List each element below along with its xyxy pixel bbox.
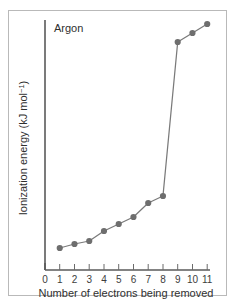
data-point (116, 221, 122, 227)
y-axis-title-superscript: −1 (17, 84, 26, 93)
x-tick-label: 5 (116, 274, 122, 285)
chart-figure: 0 1 2 3 4 5 6 7 8 9 10 11 Number of elec… (0, 0, 236, 308)
x-tick-label: 9 (175, 274, 181, 285)
data-point (204, 21, 210, 27)
x-tick-label: 6 (131, 274, 137, 285)
x-tick-label: 4 (101, 274, 107, 285)
y-axis-title-group: Ionization energy (kJ mol−1) (17, 81, 30, 216)
y-axis-title: Ionization energy (kJ mol−1) (17, 81, 30, 216)
data-point (189, 30, 195, 36)
y-axis-title-tail: ) (17, 81, 29, 85)
ionization-energy-markers (57, 21, 211, 251)
x-tick-label: 11 (202, 274, 213, 285)
data-point (101, 228, 107, 234)
data-point (145, 200, 151, 206)
x-tick-label: 7 (145, 274, 151, 285)
chart-canvas: 0 1 2 3 4 5 6 7 8 9 10 11 Number of elec… (0, 0, 236, 308)
data-point (130, 214, 136, 220)
x-tick-label: 3 (86, 274, 92, 285)
series-title-argon: Argon (54, 22, 83, 34)
x-tick-label: 1 (57, 274, 63, 285)
data-point (86, 238, 92, 244)
y-axis-title-main: Ionization energy (kJ mol (17, 93, 29, 215)
data-point (57, 245, 63, 251)
data-point (175, 39, 181, 45)
x-tick-label: 2 (72, 274, 78, 285)
data-point (160, 193, 166, 199)
x-tick-label: 0 (42, 274, 48, 285)
x-axis-ticks (45, 263, 207, 270)
x-tick-label: 8 (160, 274, 166, 285)
x-axis-title: Number of electrons being removed (39, 287, 214, 299)
x-tick-label: 10 (187, 274, 199, 285)
x-axis-tick-labels: 0 1 2 3 4 5 6 7 8 9 10 11 (42, 274, 213, 285)
data-point (71, 241, 77, 247)
